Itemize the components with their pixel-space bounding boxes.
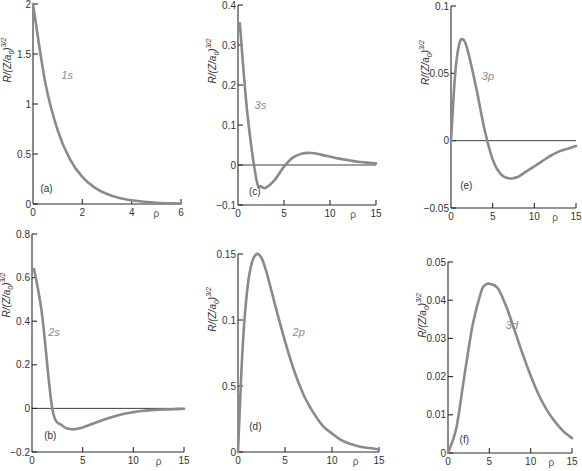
y-tick-label: 0.5 (222, 381, 236, 392)
y-tick-label: −0.1 (216, 200, 236, 211)
y-axis-label: R/(Z/a0)3/2 (205, 287, 220, 332)
y-tick-label: 0.05 (427, 257, 447, 268)
y-axis-label: R/(Z/a0)3/2 (0, 38, 15, 83)
y-tick-label: 0.3 (222, 40, 236, 51)
x-tick-label: 0 (235, 208, 241, 219)
x-tick-label: 15 (570, 211, 582, 222)
y-tick-label: 0 (24, 403, 30, 414)
x-tick-label: 0 (448, 211, 454, 222)
series-label: 2p (292, 326, 305, 338)
y-tick-label: −0.2 (10, 447, 30, 458)
x-tick-label: 5 (490, 211, 496, 222)
y-tick-label: 1 (25, 99, 31, 110)
x-tick-label: 15 (373, 455, 385, 466)
radial-curve-1s (33, 4, 181, 204)
y-tick-label: 0.4 (16, 316, 30, 327)
x-axis-label: ρ (153, 208, 159, 219)
y-tick-label: 2 (25, 0, 31, 10)
y-tick-label: 0.1 (222, 315, 236, 326)
x-axis-label: ρ (552, 212, 558, 223)
y-tick-label: 1.5 (17, 49, 31, 60)
x-tick-label: 0 (445, 456, 451, 467)
y-tick-label: 0.1 (435, 1, 449, 12)
x-axis-label: ρ (353, 456, 359, 467)
y-tick-label: 0.04 (427, 295, 447, 306)
x-tick-label: 5 (487, 456, 493, 467)
radial-wavefunction-figure: 00.511.520246ρR/(Z/a0)3/21s(a) −0.200.20… (0, 0, 582, 471)
y-tick-label: 0.1 (222, 120, 236, 131)
x-tick-label: 5 (281, 208, 287, 219)
y-axis-label: R/(Z/a0)3/2 (0, 273, 14, 318)
y-tick-label: 0.01 (427, 409, 447, 420)
y-tick-label: 0.8 (16, 229, 30, 240)
panel-label: (f) (460, 434, 469, 445)
panel-d-2p-chart: 00.50.10.15051015ρR/(Z/a0)3/22p(d) (205, 249, 385, 468)
x-tick-label: 5 (282, 455, 288, 466)
y-axis-label: R/(Z/a0)3/2 (205, 39, 220, 84)
x-tick-label: 0 (29, 455, 35, 466)
x-axis-label: ρ (156, 456, 162, 467)
x-tick-label: 5 (80, 455, 86, 466)
series-label: 2s (47, 326, 60, 338)
x-tick-label: 10 (529, 211, 541, 222)
y-axis-label: R/(Z/a0)3/2 (418, 40, 433, 85)
radial-curve-3d (448, 284, 572, 453)
y-tick-label: 0.4 (222, 0, 236, 11)
x-tick-label: 10 (324, 208, 336, 219)
x-axis-label: ρ (548, 457, 554, 468)
series-label: 3p (482, 70, 494, 82)
y-tick-label: 0.2 (16, 359, 30, 370)
panel-c-3s-chart: −0.100.10.20.30.4051015ρR/(Z/a0)3/23s(c) (205, 0, 382, 220)
x-tick-label: 10 (525, 456, 537, 467)
panel-e-3p-chart: −0.0500.050.1051015ρR/(Z/a0)3/23p(e) (418, 1, 582, 224)
panel-label: (b) (44, 430, 56, 441)
y-tick-label: 0.6 (16, 272, 30, 283)
panel-b-2s-chart: −0.200.20.40.60.8051015ρR/(Z/a0)3/22s(b) (0, 229, 190, 468)
radial-curve-3p (451, 39, 576, 179)
y-tick-label: 0.2 (222, 80, 236, 91)
series-label: 3s (255, 99, 267, 111)
x-tick-label: 2 (80, 207, 86, 218)
series-label: 3d (506, 319, 519, 331)
x-tick-label: 10 (128, 455, 140, 466)
panel-label: (e) (460, 180, 472, 191)
y-tick-label: 0 (443, 135, 449, 146)
panel-f-3d-chart: 00.010.020.030.040.05051015ρR/(Z/a0)3/23… (415, 257, 578, 469)
radial-curve-2s (34, 269, 184, 429)
y-tick-label: 0.05 (430, 68, 450, 79)
y-tick-label: 0.02 (427, 371, 447, 382)
x-tick-label: 10 (326, 455, 338, 466)
x-tick-label: 6 (178, 207, 184, 218)
y-tick-label: −0.05 (424, 203, 450, 214)
x-tick-label: 0 (30, 207, 36, 218)
y-tick-label: 0.15 (217, 249, 237, 260)
panel-label: (a) (40, 183, 52, 194)
x-tick-label: 15 (178, 455, 190, 466)
x-tick-label: 4 (129, 207, 135, 218)
panel-label: (c) (249, 186, 261, 197)
series-label: 1s (61, 69, 73, 81)
y-tick-label: 0.5 (17, 149, 31, 160)
y-tick-label: 0 (230, 160, 236, 171)
x-tick-label: 15 (566, 456, 578, 467)
x-tick-label: 0 (235, 455, 241, 466)
x-axis-label: ρ (350, 209, 356, 220)
panel-a-1s-chart: 00.511.520246ρR/(Z/a0)3/21s(a) (0, 0, 184, 219)
x-tick-label: 15 (370, 208, 382, 219)
panel-label: (d) (249, 421, 261, 432)
y-tick-label: 0.03 (427, 333, 447, 344)
